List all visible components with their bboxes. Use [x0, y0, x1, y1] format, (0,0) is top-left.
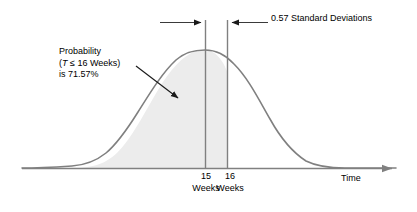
- x-axis-label: Time: [341, 173, 361, 184]
- x-tick-label-16-weeks: 16 Weeks: [213, 170, 247, 194]
- tick-unit-16: Weeks: [213, 182, 247, 194]
- probability-annotation-line-1: Probability: [59, 46, 120, 58]
- probability-annotation-line-3: is 71.57%: [59, 69, 120, 81]
- probability-condition: ≤ 16 Weeks): [68, 58, 121, 68]
- tick-value-16: 16: [213, 170, 247, 182]
- probability-annotation: Probability (T ≤ 16 Weeks) is 71.57%: [59, 46, 120, 81]
- normal-distribution-figure: 0.57 Standard Deviations Probability (T …: [0, 0, 417, 212]
- probability-annotation-line-2: (T ≤ 16 Weeks): [59, 58, 120, 70]
- standard-deviations-label: 0.57 Standard Deviations: [271, 13, 372, 24]
